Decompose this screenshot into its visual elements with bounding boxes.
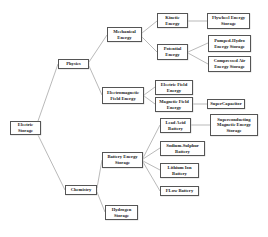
node-lead-acid-battery: Lead Acid Battery (160, 118, 191, 133)
node-superconducting-magnetic-energy-storage: Superconducting Magnetic Energy Storage (210, 114, 258, 136)
node-battery-energy-storage: Battery Energy Storage (102, 152, 143, 168)
node-sodium-sulphur-battery: Sodium-Sulphur Battery (160, 141, 205, 156)
node-kinetic-energy: Kinetic Energy (157, 13, 188, 28)
node-electric-field-energy: Electric Field Energy (155, 80, 193, 95)
faint-caption-artifact (10, 226, 260, 232)
node-magnetic-field-energy: Magnetic Field Energy (155, 97, 193, 112)
node-flow-battery: FLow Battery (160, 186, 199, 196)
node-electromagnetic-field-energy: Electromagnetic Field Energy (102, 87, 144, 104)
node-hydrogen-storage: Hydrogen Storage (105, 205, 138, 220)
node-potential-energy: Potential Energy (157, 44, 188, 60)
node-lithium-ion-battery: Lithium Ion Battery (160, 163, 199, 178)
node-flywheel-energy-storage: Flywheel Energy Storage (207, 13, 250, 29)
node-physics: Physics (58, 59, 89, 69)
node-pumped-hydro-energy-storage: Pumped-Hydro Energy Storage (208, 35, 251, 52)
node-compressed-air-energy-storage: Compressed Air Energy Storage (208, 56, 251, 72)
node-chemistry: Chemistry (65, 185, 97, 195)
electric-storage-tree-diagram: Electric Storage Physics Chemistry Mecha… (0, 0, 268, 237)
node-electric-storage: Electric Storage (10, 121, 41, 135)
node-mechanical-energy: Mechanical Energy (107, 27, 142, 42)
node-supercapacitor: SuperCapacitor (207, 99, 245, 109)
